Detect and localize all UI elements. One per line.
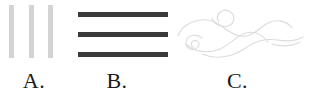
vertical-line-2-icon	[29, 5, 34, 58]
answer-option-a[interactable]: A.	[0, 0, 72, 105]
wind-swirl-icon	[172, 0, 309, 62]
answer-option-a-label: A.	[0, 68, 70, 94]
horizontal-lines-pattern-swatch	[72, 0, 172, 62]
vertical-line-3-icon	[48, 5, 53, 58]
answer-option-b[interactable]: B.	[72, 0, 172, 105]
answer-option-b-label: B.	[67, 68, 167, 94]
horizontal-line-3-icon	[78, 52, 168, 57]
wind-swirl-pattern-swatch	[172, 0, 309, 62]
answer-option-c[interactable]: C.	[172, 0, 309, 105]
vertical-line-1-icon	[9, 5, 14, 58]
answer-option-c-label: C.	[169, 68, 306, 94]
horizontal-line-2-icon	[78, 32, 168, 37]
vertical-lines-pattern-swatch	[0, 0, 72, 62]
horizontal-line-1-icon	[78, 12, 168, 17]
answer-choice-figure: A. B.	[0, 0, 309, 105]
